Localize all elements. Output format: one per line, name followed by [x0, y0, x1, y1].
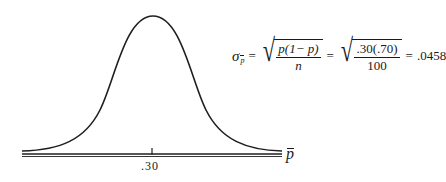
sigma-subscript: p	[240, 56, 244, 65]
standard-error-formula: σ p = √ p(1− p) n = √ .30(.70) 100 = .04…	[232, 36, 446, 76]
general-fraction: p(1− p) n	[276, 42, 320, 74]
equals-sign: =	[327, 48, 334, 64]
numeric-sqrt: √ .30(.70) 100	[338, 39, 402, 74]
general-denominator: n	[295, 58, 302, 74]
general-numerator: p(1− p)	[276, 42, 320, 58]
standard-error-result: .0458	[417, 48, 446, 64]
equals-sign: =	[406, 48, 413, 64]
radical-icon: √	[340, 35, 352, 74]
x-axis-label: p	[286, 145, 294, 163]
general-sqrt: √ p(1− p) n	[260, 39, 323, 74]
radical-icon: √	[262, 35, 274, 74]
center-tick-label: .30	[141, 159, 159, 174]
numeric-fraction: .30(.70) 100	[354, 42, 399, 74]
numeric-numerator: .30(.70)	[354, 42, 399, 58]
numeric-denominator: 100	[367, 58, 387, 74]
sigma-symbol: σ	[232, 48, 239, 65]
equals-sign: =	[248, 48, 255, 64]
